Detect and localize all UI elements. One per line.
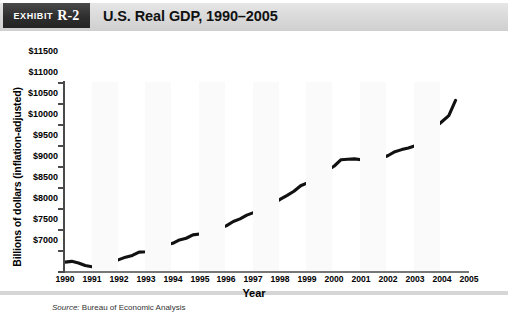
y-tick-label: $8000	[8, 193, 58, 203]
y-axis-tick	[58, 166, 65, 168]
plot-band	[360, 82, 386, 271]
exhibit-header: EXHIBIT R-2 U.S. Real GDP, 1990–2005	[0, 0, 508, 31]
y-axis-tick	[58, 271, 65, 273]
source-label: Source:	[52, 303, 80, 312]
y-tick-label: $9500	[8, 130, 58, 140]
exhibit-label: EXHIBIT	[13, 11, 53, 21]
x-axis-title: Year	[0, 287, 508, 299]
y-axis-line	[63, 81, 65, 272]
plot-band	[145, 82, 171, 271]
chart-panel: Billions of dollars (inflation-adjusted)…	[0, 31, 508, 295]
source-note: Source: Bureau of Economic Analysis	[52, 303, 185, 312]
x-tick-label: 2005	[449, 274, 489, 284]
page-title: U.S. Real GDP, 1990–2005	[103, 3, 278, 28]
exhibit-number: R-2	[57, 8, 79, 24]
y-axis-tick	[58, 250, 65, 252]
exhibit-badge: EXHIBIT R-2	[3, 3, 90, 28]
y-tick-label: $11500	[8, 46, 58, 56]
plot-area	[65, 82, 469, 271]
y-tick-label: $11000	[8, 67, 58, 77]
plot-band	[414, 82, 440, 271]
y-axis-tick	[58, 229, 65, 231]
y-axis-tick	[58, 208, 65, 210]
plot-band	[306, 82, 332, 271]
y-axis-tick-labels: $11500 $11000 $10500 $10000 $9500 $9000 …	[3, 31, 58, 295]
y-axis-tick	[58, 103, 65, 105]
y-tick-label: $9000	[8, 151, 58, 161]
source-text: Bureau of Economic Analysis	[80, 303, 186, 312]
plot-band	[199, 82, 225, 271]
y-axis-tick	[58, 124, 65, 126]
y-axis-tick	[58, 82, 65, 84]
y-tick-label: $8500	[8, 172, 58, 182]
y-tick-label: $7500	[8, 214, 58, 224]
x-axis-line	[63, 271, 469, 273]
y-tick-label: $10500	[8, 88, 58, 98]
plot-band	[253, 82, 279, 271]
plot-band	[92, 82, 118, 271]
y-axis-tick	[58, 187, 65, 189]
y-tick-label: $10000	[8, 109, 58, 119]
y-axis-tick	[58, 145, 65, 147]
y-tick-label: $7000	[8, 235, 58, 245]
